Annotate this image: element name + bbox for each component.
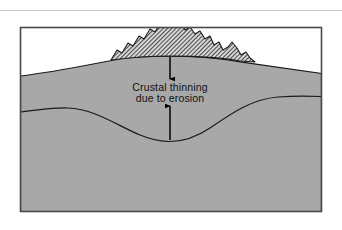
crust-body [21,56,322,211]
annotation-line-2: due to erosion [136,92,205,104]
crustal-thinning-diagram: Crustal thinning due to erosion [0,0,342,230]
figure-root: Crustal thinning due to erosion [0,0,342,230]
